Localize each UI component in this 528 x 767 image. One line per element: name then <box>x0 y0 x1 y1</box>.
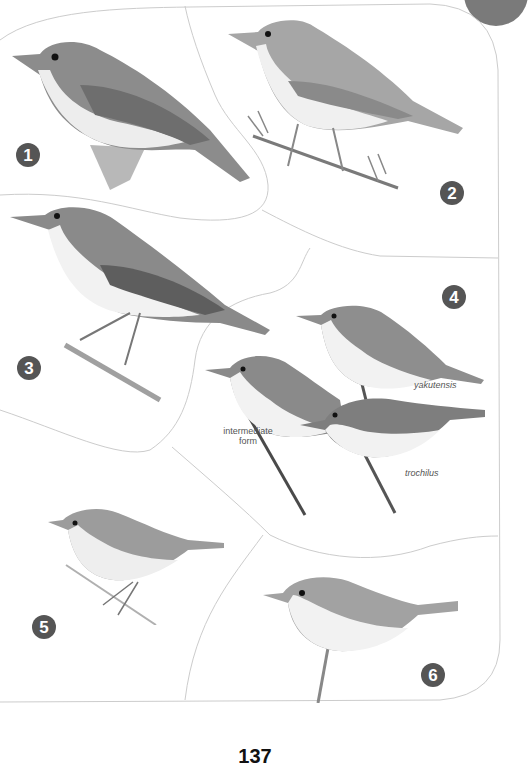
panel-number-badge-6: 6 <box>421 663 445 687</box>
label-intermediate-line1: intermediate <box>218 426 278 436</box>
label-trochilus: trochilus <box>405 468 439 478</box>
page-number: 137 <box>0 745 510 767</box>
label-intermediate-form: intermediate form <box>218 426 278 446</box>
label-yakutensis: yakutensis <box>414 380 457 390</box>
bird-illustration-2 <box>228 16 468 196</box>
bird-illustration-5 <box>48 505 228 625</box>
panel-number-badge-4: 4 <box>442 285 466 309</box>
panel-number-badge-1: 1 <box>16 143 40 167</box>
panel-number-badge-5: 5 <box>32 615 56 639</box>
panel-number-badge-2: 2 <box>440 181 464 205</box>
bird-illustration-4-trochilus <box>300 395 490 515</box>
panel-number-badge-3: 3 <box>17 356 41 380</box>
label-intermediate-line2: form <box>218 436 278 446</box>
bird-illustration-1 <box>10 30 255 190</box>
